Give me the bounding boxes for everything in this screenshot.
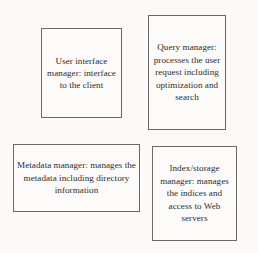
diagram-canvas: User interface manager: interface to the… xyxy=(0,0,258,253)
diagram-node-label: User interface manager: interface to the… xyxy=(45,55,118,92)
diagram-node-metadata-manager[interactable]: Metadata manager: manages the metadata i… xyxy=(13,144,140,212)
diagram-node-index-storage-manager[interactable]: Index/storage manager: manages the indic… xyxy=(152,146,237,241)
diagram-node-query-manager[interactable]: Query manager: processes the user reques… xyxy=(148,15,226,130)
diagram-node-user-interface-manager[interactable]: User interface manager: interface to the… xyxy=(41,28,122,118)
diagram-node-label: Query manager: processes the user reques… xyxy=(152,41,222,103)
diagram-node-label: Index/storage manager: manages the indic… xyxy=(156,162,233,224)
diagram-node-label: Metadata manager: manages the metadata i… xyxy=(17,159,136,197)
